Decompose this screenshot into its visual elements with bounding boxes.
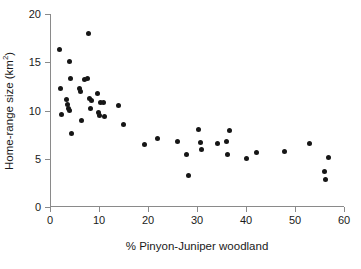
- y-tick-mark: [45, 207, 50, 208]
- y-axis-title: Home-range size (km2): [0, 14, 16, 207]
- data-point: [69, 131, 74, 136]
- x-tick-label: 10: [93, 214, 105, 226]
- x-tick-mark: [99, 207, 100, 212]
- data-point: [215, 141, 220, 146]
- data-point: [254, 150, 259, 155]
- data-point: [326, 155, 331, 160]
- y-axis-title-suffix: ): [3, 51, 15, 55]
- x-tick-label: 0: [47, 214, 53, 226]
- data-point: [282, 149, 287, 154]
- data-point: [184, 152, 189, 157]
- data-point: [225, 152, 230, 157]
- data-point: [86, 31, 91, 36]
- y-tick-label: 0: [35, 201, 41, 213]
- data-point: [85, 76, 90, 81]
- x-tick-label: 60: [338, 214, 350, 226]
- data-point: [142, 142, 147, 147]
- y-tick-label: 10: [29, 105, 41, 117]
- data-point: [79, 118, 84, 123]
- y-axis-title-prefix: Home-range size (km: [3, 60, 15, 170]
- x-tick-mark: [344, 207, 345, 212]
- x-tick-mark: [148, 207, 149, 212]
- x-tick-label: 40: [240, 214, 252, 226]
- data-point: [101, 100, 106, 105]
- data-point: [57, 47, 62, 52]
- data-point: [95, 91, 100, 96]
- data-point: [244, 156, 249, 161]
- y-tick-label: 20: [29, 8, 41, 20]
- x-tick-mark: [246, 207, 247, 212]
- data-point: [199, 147, 204, 152]
- y-axis-line: [50, 14, 51, 207]
- x-tick-label: 30: [191, 214, 203, 226]
- x-tick-mark: [197, 207, 198, 212]
- data-point: [116, 103, 121, 108]
- data-point: [78, 89, 83, 94]
- data-point: [196, 127, 201, 132]
- data-point: [224, 139, 229, 144]
- x-tick-mark: [295, 207, 296, 212]
- data-point: [58, 86, 63, 91]
- data-point: [198, 140, 203, 145]
- y-tick-label: 5: [35, 153, 41, 165]
- data-point: [89, 98, 94, 103]
- data-point: [121, 122, 126, 127]
- data-point: [175, 139, 180, 144]
- data-point: [322, 169, 327, 174]
- y-tick-mark: [45, 14, 50, 15]
- data-point: [227, 128, 232, 133]
- x-tick-label: 50: [289, 214, 301, 226]
- data-point: [59, 112, 64, 117]
- y-tick-mark: [45, 159, 50, 160]
- data-point: [67, 108, 72, 113]
- data-point: [88, 106, 93, 111]
- x-tick-label: 20: [142, 214, 154, 226]
- data-point: [67, 59, 72, 64]
- data-point: [323, 177, 328, 182]
- x-tick-mark: [50, 207, 51, 212]
- data-point: [155, 136, 160, 141]
- y-tick-label: 15: [29, 56, 41, 68]
- y-tick-mark: [45, 111, 50, 112]
- data-point: [186, 173, 191, 178]
- scatter-plot-figure: Home-range size (km2) 0102030405060 0510…: [0, 0, 361, 269]
- y-tick-mark: [45, 62, 50, 63]
- data-point: [102, 114, 107, 119]
- x-axis-title: % Pinyon-Juniper woodland: [50, 240, 344, 252]
- y-axis-title-text: Home-range size (km2): [1, 51, 15, 169]
- data-point: [307, 141, 312, 146]
- data-point: [68, 76, 73, 81]
- plot-area: 0102030405060 05101520: [50, 14, 344, 207]
